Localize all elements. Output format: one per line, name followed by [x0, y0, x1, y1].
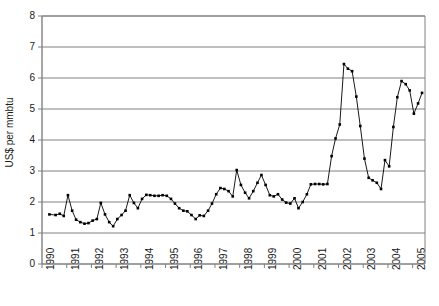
gridlines — [42, 16, 425, 233]
data-point-markers — [48, 63, 423, 228]
line-chart: US$ per mmbtu 012345678 1990199119921993… — [0, 0, 439, 306]
plot-area — [0, 0, 439, 306]
